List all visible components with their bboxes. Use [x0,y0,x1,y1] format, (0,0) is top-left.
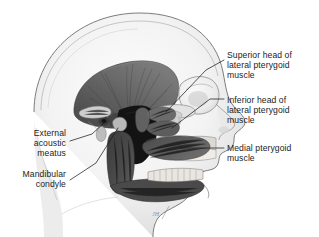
label-mandibular-condyle: Mandibular condyle [6,169,66,189]
svg-text:JH: JH [152,211,160,217]
label-external-acoustic-meatus: External acoustic meatus [6,128,66,159]
label-inferior-head-lateral-pterygoid: Inferior head of lateral pterygoid muscl… [227,95,319,126]
label-medial-pterygoid-muscle: Medial pterygoid muscle [227,143,319,163]
label-superior-head-lateral-pterygoid: Superior head of lateral pterygoid muscl… [227,50,319,81]
anatomical-figure: JH Superior head of lateral pterygoid mu… [0,0,319,237]
